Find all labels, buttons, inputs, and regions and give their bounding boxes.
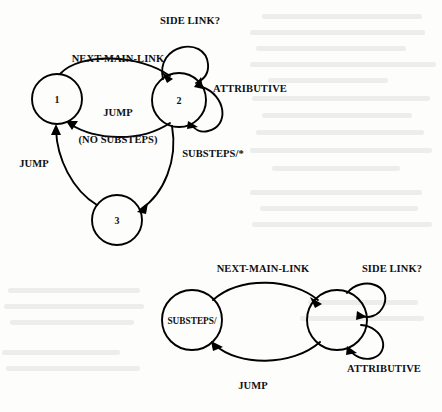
node-substeps[interactable]: SUBSTEPS/ — [162, 290, 222, 350]
edge-label-attributive-lower: ATTRIBUTIVE — [347, 363, 421, 374]
upper-automaton: 1 2 3 NEXT-MAIN-LINK JUMP (NO SUBSTEPS) … — [19, 15, 287, 245]
edge-label-next-main-link-upper: NEXT-MAIN-LINK — [72, 53, 165, 64]
edge-next-main-link-lower — [213, 283, 322, 308]
node-substeps-label: SUBSTEPS/ — [167, 316, 217, 326]
state-diagrams: 1 2 3 NEXT-MAIN-LINK JUMP (NO SUBSTEPS) … — [0, 0, 442, 412]
edge-label-side-link-upper: SIDE LINK? — [160, 15, 220, 26]
node-state-3-label: 3 — [115, 215, 120, 226]
edge-label-jump-upper-return: JUMP — [103, 107, 133, 118]
edge-label-substeps-star: SUBSTEPS/* — [182, 148, 244, 159]
edge-label-side-link-lower: SIDE LINK? — [362, 263, 422, 274]
node-lower-right-state[interactable] — [307, 290, 367, 350]
node-state-1-label: 1 — [55, 94, 60, 105]
node-state-2[interactable]: 2 — [152, 73, 206, 127]
edge-label-no-substeps: (NO SUBSTEPS) — [78, 134, 158, 146]
lower-automaton: SUBSTEPS/ NEXT-MAIN-LINK JUMP SIDE LINK?… — [162, 263, 422, 391]
figure-page: 1 2 3 NEXT-MAIN-LINK JUMP (NO SUBSTEPS) … — [0, 0, 442, 412]
edge-label-attributive-upper: ATTRIBUTIVE — [213, 83, 287, 94]
edge-label-jump-lower: JUMP — [238, 380, 268, 391]
node-state-2-label: 2 — [177, 95, 182, 106]
edge-jump-lower-return — [211, 341, 320, 361]
node-state-1[interactable]: 1 — [32, 74, 82, 124]
edge-side-link-self-loop — [162, 47, 208, 89]
node-state-3[interactable]: 3 — [92, 195, 142, 245]
edge-label-jump-upper-left: JUMP — [19, 158, 49, 169]
edge-label-next-main-link-lower: NEXT-MAIN-LINK — [217, 263, 310, 274]
